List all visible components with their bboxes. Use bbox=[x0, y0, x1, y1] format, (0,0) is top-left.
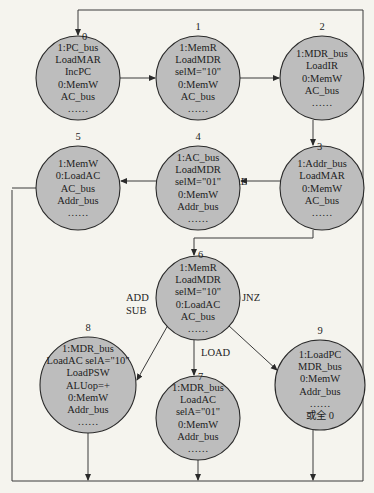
state-line: 1:MDR_bus bbox=[62, 343, 114, 354]
state-line: 1:MDR_bus bbox=[172, 382, 224, 393]
state-4: 41:AC_busLoadMDRselM="01"0:MemWAddr_bus…… bbox=[156, 131, 240, 230]
state-line: LoadMDR bbox=[175, 274, 221, 285]
state-2: 21:MDR_busLoadIR0:MemWAC_bus…… bbox=[280, 21, 364, 120]
state-line: AC_bus bbox=[61, 183, 95, 194]
state-line: …… bbox=[312, 207, 333, 218]
state-1: 11:MemRLoadMDRselM="10"0:MemWAC_bus…… bbox=[156, 21, 240, 120]
state-line: selM="10" bbox=[175, 66, 221, 77]
state-8: 81:MDR_busLoadAC selA="10"LoadPSWALUop=+… bbox=[40, 322, 136, 433]
state-3: 31:Addr_busLoadMAR0:MemWAC_bus…… bbox=[280, 141, 364, 230]
state-number: 0 bbox=[82, 31, 87, 42]
state-number: 2 bbox=[319, 21, 324, 32]
state-5: 51:MemW0:LoadACAC_busAddr_bus…… bbox=[36, 131, 120, 230]
state-number: 7 bbox=[198, 371, 203, 382]
state-number: 9 bbox=[317, 325, 322, 336]
state-line: 或全 0 bbox=[306, 409, 334, 421]
state-line: …… bbox=[188, 323, 209, 334]
state-line: ALUop=+ bbox=[66, 380, 110, 391]
state-line: LoadMAR bbox=[55, 54, 101, 65]
state-line: LoadMDR bbox=[175, 54, 221, 65]
state-line: …… bbox=[78, 416, 99, 427]
diagram-svg: STORE ADD SUB LOAD JNZ 01:PC_busLoadMARI… bbox=[0, 0, 374, 493]
state-line: selM="10" bbox=[175, 286, 221, 297]
state-number: 3 bbox=[317, 141, 322, 152]
state-line: 0:MemW bbox=[178, 419, 218, 430]
state-line: Addr_bus bbox=[177, 431, 218, 442]
state-line: selA="01" bbox=[176, 406, 220, 417]
state-number: 4 bbox=[195, 131, 201, 142]
state-line: AC_bus bbox=[181, 311, 215, 322]
state-line: …… bbox=[312, 97, 333, 108]
state-line: selM="01" bbox=[175, 176, 221, 187]
state-line: …… bbox=[188, 213, 209, 224]
edge-6-8 bbox=[137, 325, 168, 380]
state-line: LoadAC selA="10" bbox=[46, 355, 129, 366]
states-group: 01:PC_busLoadMARIncPC0:MemWAC_bus……11:Me… bbox=[36, 21, 365, 460]
state-line: LoadAC bbox=[180, 394, 216, 405]
state-line: AC_bus bbox=[61, 91, 95, 102]
state-line: 0:MemW bbox=[302, 183, 342, 194]
state-diagram: STORE ADD SUB LOAD JNZ 01:PC_busLoadMARI… bbox=[0, 0, 374, 493]
state-line: 0:LoadAC bbox=[176, 299, 220, 310]
state-line: 0:MemW bbox=[178, 189, 218, 200]
state-line: …… bbox=[68, 103, 89, 114]
edge-3-6 bbox=[194, 230, 313, 255]
state-line: LoadIR bbox=[306, 60, 338, 71]
state-0: 01:PC_busLoadMARIncPC0:MemWAC_bus…… bbox=[36, 31, 120, 120]
state-number: 8 bbox=[85, 322, 90, 333]
edge-label-jnz: JNZ bbox=[242, 292, 260, 303]
edge-label-sub: SUB bbox=[126, 305, 146, 316]
state-line: …… bbox=[310, 398, 331, 409]
edge-label-load: LOAD bbox=[201, 347, 231, 358]
state-line: Addr_bus bbox=[299, 386, 340, 397]
state-line: IncPC bbox=[65, 66, 91, 77]
state-line: AC_bus bbox=[181, 91, 215, 102]
state-line: …… bbox=[188, 103, 209, 114]
state-line: AC_bus bbox=[305, 85, 339, 96]
state-line: 1:MDR_bus bbox=[296, 48, 348, 59]
state-line: MDR_bus bbox=[298, 361, 342, 372]
state-line: 0:LoadAC bbox=[56, 170, 100, 181]
state-line: 1:MemR bbox=[179, 42, 216, 53]
state-line: Addr_bus bbox=[177, 201, 218, 212]
edge-label-add: ADD bbox=[126, 292, 149, 303]
state-line: 0:MemW bbox=[300, 373, 340, 384]
state-line: 0:MemW bbox=[302, 73, 342, 84]
state-line: 1:LoadPC bbox=[299, 349, 342, 360]
state-6: 61:MemRLoadMDRselM="10"0:LoadACAC_bus…… bbox=[156, 249, 240, 340]
state-line: …… bbox=[68, 207, 89, 218]
state-line: LoadPSW bbox=[66, 367, 109, 378]
state-line: Addr_bus bbox=[67, 404, 108, 415]
state-line: AC_bus bbox=[305, 195, 339, 206]
state-line: 1:MemR bbox=[179, 262, 216, 273]
state-line: LoadMDR bbox=[175, 164, 221, 175]
state-line: Addr_bus bbox=[57, 195, 98, 206]
state-line: 1:PC_bus bbox=[58, 42, 99, 53]
state-line: 0:MemW bbox=[178, 79, 218, 90]
edge-6-9 bbox=[228, 325, 277, 370]
state-line: 1:AC_bus bbox=[177, 152, 220, 163]
state-7: 71:MDR_busLoadACselA="01"0:MemWAddr_bus…… bbox=[156, 371, 240, 460]
state-number: 5 bbox=[75, 131, 80, 142]
state-line: 1:MemW bbox=[58, 158, 98, 169]
state-line: 0:MemW bbox=[58, 79, 98, 90]
state-number: 6 bbox=[198, 249, 203, 260]
state-line: LoadMAR bbox=[299, 170, 345, 181]
state-line: 0:MemW bbox=[68, 392, 108, 403]
state-line: …… bbox=[188, 443, 209, 454]
state-line: 1:Addr_bus bbox=[297, 158, 347, 169]
state-9: 91:LoadPCMDR_bus0:MemWAddr_bus……或全 0 bbox=[275, 325, 365, 430]
state-number: 1 bbox=[195, 21, 200, 32]
